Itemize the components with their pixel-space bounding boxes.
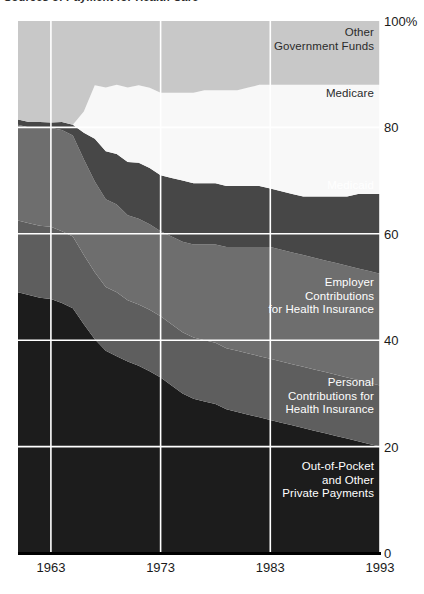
- x-axis-baseline: [18, 552, 381, 555]
- y-axis-tick-label: 60: [384, 228, 398, 241]
- band-label-medicaid: Medicaid: [327, 179, 374, 193]
- y-axis-tick-label: 0: [384, 547, 391, 560]
- x-axis-tick-label: 1993: [366, 561, 395, 574]
- y-axis-tick-label: 40: [384, 334, 398, 347]
- chart-title: Sources of Payment for Health Care: [0, 0, 424, 3]
- band-label-employer-contributions: Employer Contributions for Health Insura…: [268, 276, 374, 317]
- x-axis-tick-label: 1963: [36, 561, 65, 574]
- stacked-area-chart: Sources of Payment for Health Care 100%8…: [0, 0, 424, 594]
- band-label-other-government-funds: Other Government Funds: [274, 26, 374, 53]
- y-axis-tick-label: 100%: [384, 15, 417, 28]
- y-axis-tick-label: 20: [384, 441, 398, 454]
- x-axis-tick-label: 1983: [256, 561, 285, 574]
- band-label-out-of-pocket: Out-of-Pocket and Other Private Payments: [282, 460, 374, 501]
- y-axis-tick-label: 80: [384, 121, 398, 134]
- band-label-personal-contributions: Personal Contributions for Health Insura…: [285, 376, 374, 417]
- band-label-medicare: Medicare: [326, 87, 374, 101]
- x-axis-tick-label: 1973: [146, 561, 175, 574]
